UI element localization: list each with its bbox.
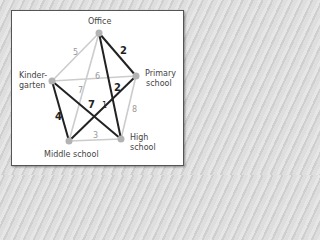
node-label-high-2: school <box>130 143 156 152</box>
edge-kindergarten-primary <box>52 76 136 81</box>
node-middle <box>66 138 73 145</box>
node-primary <box>133 73 140 80</box>
weight-office-middle: 7 <box>78 86 83 95</box>
weight-office-primary: 2 <box>120 46 127 55</box>
weight-primary-middle: 1 <box>102 101 107 110</box>
weight-primary-high: 8 <box>132 105 137 114</box>
weight-office-kindergarten: 5 <box>73 48 78 57</box>
weight-middle-high: 3 <box>93 131 98 140</box>
node-label-middle: Middle school <box>44 150 99 159</box>
node-label-primary-1: Primary <box>145 69 176 78</box>
node-label-primary-2: school <box>146 79 172 88</box>
node-high <box>118 136 125 143</box>
node-label-high-1: High <box>130 133 148 142</box>
node-kindergarten <box>49 78 56 85</box>
node-label-kinder-2: garten <box>19 81 45 90</box>
weight-kindergarten-primary: 6 <box>95 72 100 81</box>
node-label-kinder-1: Kinder- <box>19 71 47 80</box>
weight-office-high: 2 <box>114 83 121 92</box>
weight-kindergarten-high: 7 <box>88 100 95 109</box>
node-office <box>96 30 103 37</box>
node-label-office: Office <box>88 17 111 26</box>
edge-office-primary <box>99 33 136 76</box>
weight-kindergarten-middle: 4 <box>55 112 62 121</box>
